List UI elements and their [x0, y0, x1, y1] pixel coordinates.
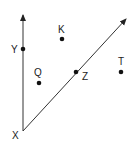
label-q: Q	[34, 67, 42, 78]
label-z: Z	[82, 71, 88, 82]
point-z	[74, 70, 79, 75]
angle-diagram: X Y K Q Z T	[0, 0, 135, 148]
label-k: K	[58, 24, 65, 35]
label-x: X	[12, 130, 19, 141]
label-y: Y	[11, 44, 18, 55]
point-k	[60, 37, 65, 42]
point-t	[119, 70, 124, 75]
point-q	[37, 81, 42, 86]
point-y	[21, 47, 26, 52]
label-t: T	[118, 56, 124, 67]
